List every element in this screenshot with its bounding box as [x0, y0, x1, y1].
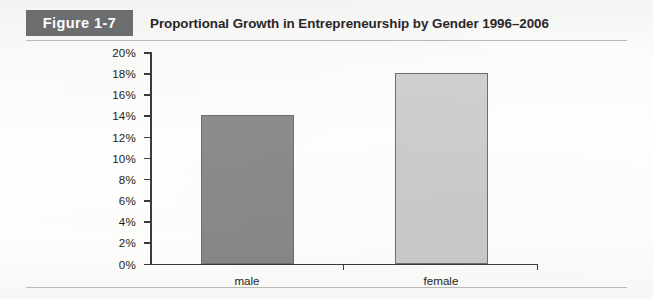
y-axis-tick: 16% — [144, 94, 150, 96]
y-axis-tick: 18% — [144, 73, 150, 75]
y-axis-tick: 10% — [144, 158, 150, 160]
figure-container: Figure 1-7 Proportional Growth in Entrep… — [0, 0, 653, 299]
y-axis-tick-label: 4% — [119, 215, 136, 228]
figure-header: Figure 1-7 Proportional Growth in Entrep… — [26, 10, 626, 36]
bar-female — [395, 73, 488, 263]
y-axis-tick: 2% — [144, 242, 150, 244]
y-axis-tick-label: 8% — [119, 172, 136, 185]
footer-divider-rule — [26, 287, 627, 288]
chart-plot-area: 0%2%4%6%8%10%12%14%16%18%20% malefemale — [150, 52, 538, 265]
category-label-female: female — [424, 274, 459, 287]
y-axis-tick-label: 18% — [112, 67, 136, 80]
y-axis-tick: 6% — [144, 200, 150, 202]
y-axis-tick: 4% — [144, 221, 150, 223]
figure-title: Proportional Growth in Entrepreneurship … — [133, 10, 626, 36]
y-axis-tick: 0% — [144, 264, 150, 266]
x-axis-line — [150, 264, 538, 266]
y-axis-tick-label: 0% — [119, 257, 136, 270]
y-axis-tick-label: 12% — [112, 130, 136, 143]
y-axis-tick: 20% — [144, 52, 150, 54]
y-axis-tick: 12% — [144, 137, 150, 139]
y-axis-tick-label: 20% — [112, 46, 136, 59]
x-axis-tick — [537, 264, 539, 270]
y-axis-tick-label: 16% — [112, 88, 136, 101]
figure-number-tag: Figure 1-7 — [26, 10, 133, 36]
y-axis-tick: 8% — [144, 179, 150, 181]
y-axis-line — [150, 52, 152, 265]
y-axis-tick: 14% — [144, 115, 150, 117]
y-axis-tick-label: 6% — [119, 194, 136, 207]
y-axis-tick-label: 10% — [112, 151, 136, 164]
y-axis-tick-label: 2% — [119, 236, 136, 249]
bar-male — [201, 115, 294, 263]
y-axis-tick-label: 14% — [112, 109, 136, 122]
category-label-male: male — [234, 274, 259, 287]
header-divider-rule — [26, 40, 627, 41]
x-axis-tick — [343, 264, 345, 270]
